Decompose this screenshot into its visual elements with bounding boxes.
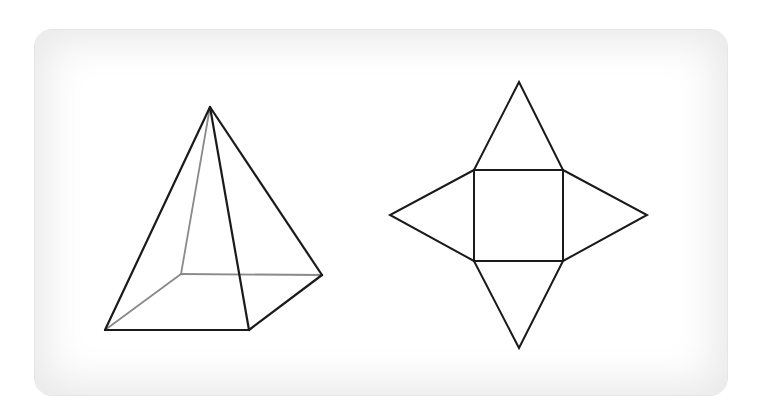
visible-edge	[210, 107, 249, 330]
net-triangle-bottom	[474, 261, 563, 348]
net-square-base	[474, 170, 563, 261]
square-pyramid	[105, 107, 322, 330]
visible-edge	[210, 107, 322, 275]
hidden-edge	[181, 107, 210, 274]
net-triangle-right	[563, 170, 647, 261]
visible-edge	[249, 275, 322, 330]
net-triangle-top	[474, 82, 563, 170]
hidden-edge	[181, 274, 322, 275]
diagram-figure	[0, 0, 762, 415]
pyramid-net	[390, 82, 647, 348]
visible-edge	[105, 107, 210, 330]
net-triangle-left	[390, 170, 474, 261]
hidden-edge	[105, 274, 181, 330]
diagram-canvas	[0, 0, 762, 415]
